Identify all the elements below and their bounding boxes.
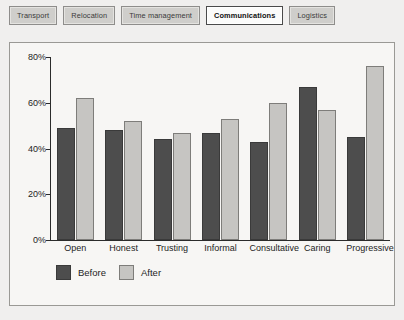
bar-caring-before xyxy=(299,87,317,240)
bar-informal-before xyxy=(202,133,220,241)
bar-open-after xyxy=(76,98,94,240)
x-tick-label: Progressive xyxy=(346,243,385,253)
chart-axes xyxy=(50,57,390,241)
bar-trusting-before xyxy=(154,139,172,240)
chart-legend: BeforeAfter xyxy=(56,265,161,280)
y-tick-mark xyxy=(46,240,50,241)
tab-time-management[interactable]: Time management xyxy=(121,6,200,25)
bar-group xyxy=(347,57,384,240)
bar-informal-after xyxy=(221,119,239,240)
y-tick-label: 0% xyxy=(33,235,46,245)
tab-relocation[interactable]: Relocation xyxy=(63,6,115,25)
y-tick-mark xyxy=(46,194,50,195)
x-axis-line xyxy=(50,240,390,241)
legend-label: Before xyxy=(78,267,106,278)
x-tick-label: Consultative xyxy=(249,243,288,253)
x-tick-label: Informal xyxy=(201,243,240,253)
y-tick-label: 20% xyxy=(28,189,46,199)
x-tick-label: Caring xyxy=(298,243,337,253)
bar-honest-after xyxy=(124,121,142,240)
y-tick-label: 40% xyxy=(28,144,46,154)
legend-label: After xyxy=(141,267,161,278)
bar-group xyxy=(154,57,191,240)
bar-group xyxy=(57,57,94,240)
bar-trusting-after xyxy=(173,133,191,241)
x-tick-label: Honest xyxy=(104,243,143,253)
y-axis-tick-labels: 80%60%40%20%0% xyxy=(10,43,46,257)
legend-swatch-before xyxy=(56,265,71,280)
tab-transport[interactable]: Transport xyxy=(9,6,57,25)
bar-group xyxy=(202,57,239,240)
legend-item-before: Before xyxy=(56,265,106,280)
bar-group xyxy=(105,57,142,240)
y-tick-mark xyxy=(46,57,50,58)
bar-consultative-after xyxy=(269,103,287,240)
bar-progressive-after xyxy=(366,66,384,240)
legend-item-after: After xyxy=(119,265,161,280)
y-tick-label: 80% xyxy=(28,52,46,62)
bar-consultative-before xyxy=(250,142,268,240)
bar-progressive-before xyxy=(347,137,365,240)
bar-group xyxy=(250,57,287,240)
bar-groups xyxy=(51,57,390,240)
bar-caring-after xyxy=(318,110,336,240)
x-tick-label: Open xyxy=(56,243,95,253)
tab-bar: TransportRelocationTime managementCommun… xyxy=(0,0,404,30)
y-tick-label: 60% xyxy=(28,98,46,108)
x-tick-label: Trusting xyxy=(153,243,192,253)
legend-swatch-after xyxy=(119,265,134,280)
bar-group xyxy=(299,57,336,240)
chart-panel: 80%60%40%20%0% OpenHonestTrustingInforma… xyxy=(9,42,395,306)
y-tick-mark xyxy=(46,103,50,104)
x-axis-tick-labels: OpenHonestTrustingInformalConsultativeCa… xyxy=(51,243,390,257)
tab-communications[interactable]: Communications xyxy=(206,6,283,25)
y-tick-mark xyxy=(46,149,50,150)
bar-honest-before xyxy=(105,130,123,240)
plot-area: 80%60%40%20%0% OpenHonestTrustingInforma… xyxy=(10,43,396,257)
tab-logistics[interactable]: Logistics xyxy=(289,6,335,25)
bar-open-before xyxy=(57,128,75,240)
